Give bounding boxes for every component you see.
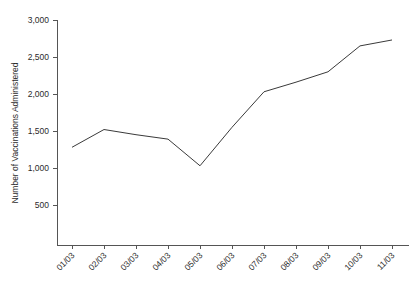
- x-tick-label: 05/03: [182, 250, 204, 272]
- x-tick-label: 11/03: [375, 250, 397, 272]
- data-series-line: [72, 40, 392, 166]
- x-tick-label: 04/03: [150, 250, 172, 272]
- y-tick-label: 3,000: [28, 15, 50, 25]
- x-tick-label: 09/03: [310, 250, 332, 272]
- y-tick-label: 1,000: [28, 163, 50, 173]
- y-tick-label: 1,500: [28, 126, 50, 136]
- x-tick-label: 01/03: [54, 250, 76, 272]
- x-tick-label: 10/03: [342, 250, 364, 272]
- x-tick-label: 06/03: [214, 250, 236, 272]
- y-tick-label: 500: [35, 200, 49, 210]
- chart-canvas: Number of Vaccinations Administered 5001…: [0, 0, 413, 286]
- x-tick-label: 03/03: [118, 250, 140, 272]
- y-axis-ticks: 5001,0001,5002,0002,5003,000: [28, 15, 57, 210]
- x-tick-label: 08/03: [278, 250, 300, 272]
- y-axis-title: Number of Vaccinations Administered: [10, 62, 20, 203]
- x-axis-ticks: 01/0302/0303/0304/0305/0306/0307/0308/03…: [54, 245, 396, 272]
- x-tick-label: 07/03: [246, 250, 268, 272]
- y-tick-label: 2,500: [28, 52, 50, 62]
- y-tick-label: 2,000: [28, 89, 50, 99]
- x-tick-label: 02/03: [86, 250, 108, 272]
- line-chart: Number of Vaccinations Administered 5001…: [0, 0, 413, 286]
